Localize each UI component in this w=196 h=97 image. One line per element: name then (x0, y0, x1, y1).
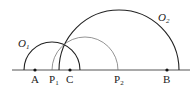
label-o1: O1 (18, 37, 29, 51)
label-a: A (31, 73, 39, 85)
label-p2: P2 (114, 73, 124, 87)
semicircle-p1-p2 (52, 37, 118, 70)
point-b (165, 68, 168, 71)
label-c: C (66, 73, 73, 85)
label-p1: P1 (49, 73, 59, 87)
label-o2: O2 (158, 11, 170, 25)
label-b: B (163, 73, 170, 85)
point-c (68, 68, 71, 71)
geometry-diagram: A P1 C P2 B O1 O2 (0, 0, 196, 97)
point-a (33, 68, 36, 71)
